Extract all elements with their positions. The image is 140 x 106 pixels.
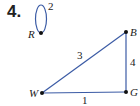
weight-b-g: 4: [130, 56, 136, 68]
weighted-graph: R B W G 2 3 4 1: [0, 0, 140, 106]
vertex-g: [124, 90, 128, 94]
vertex-b: [124, 30, 128, 34]
vertex-label-g: G: [130, 86, 138, 98]
edge-w-b: [42, 32, 126, 93]
vertex-w: [40, 91, 44, 95]
weight-w-b: 3: [77, 49, 83, 61]
edge-loop-r: [36, 5, 47, 33]
vertex-r: [39, 31, 43, 35]
edge-w-g: [42, 92, 126, 93]
vertex-label-b: B: [130, 26, 137, 38]
vertex-label-r: R: [27, 28, 35, 40]
weight-loop-r: 2: [48, 0, 54, 12]
vertex-label-w: W: [29, 87, 39, 99]
weight-w-g: 1: [82, 94, 88, 106]
